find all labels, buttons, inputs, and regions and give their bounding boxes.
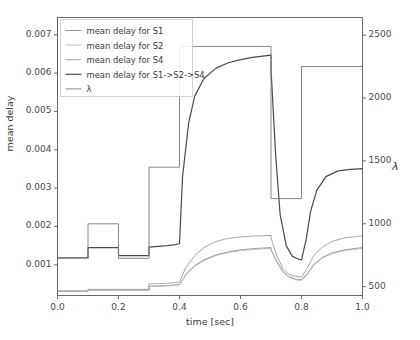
legend-label-4: λ bbox=[87, 84, 92, 94]
y-tick-label-right: 1500 bbox=[369, 155, 413, 165]
legend-label-2: mean delay for S4 bbox=[87, 55, 164, 65]
y-tick-label-left: 0.002 bbox=[6, 220, 52, 230]
x-tick-label: 0.0 bbox=[38, 302, 78, 312]
y-tick-label-left: 0.007 bbox=[6, 29, 52, 39]
y-tick-label-right: 2000 bbox=[369, 92, 413, 102]
figure-canvas: mean delay λ time [sec] mean delay for S… bbox=[0, 0, 420, 340]
y-tick-label-left: 0.004 bbox=[6, 144, 52, 154]
series-line-1 bbox=[58, 248, 363, 291]
legend-label-3: mean delay for S1->S2->S4 bbox=[87, 70, 205, 80]
y-tick-label-left: 0.005 bbox=[6, 105, 52, 115]
chart-plot: mean delay for S1mean delay for S2mean d… bbox=[0, 0, 420, 340]
y-tick-label-left: 0.003 bbox=[6, 182, 52, 192]
x-tick-label: 1.0 bbox=[343, 302, 383, 312]
y-tick-label-right: 1000 bbox=[369, 218, 413, 228]
x-tick-label: 0.6 bbox=[221, 302, 261, 312]
y-tick-label-left: 0.006 bbox=[6, 67, 52, 77]
y-tick-label-left: 0.001 bbox=[6, 259, 52, 269]
y-tick-label-right: 500 bbox=[369, 281, 413, 291]
x-tick-label: 0.8 bbox=[282, 302, 322, 312]
x-tick-label: 0.4 bbox=[160, 302, 200, 312]
x-tick-label: 0.2 bbox=[99, 302, 139, 312]
legend-label-0: mean delay for S1 bbox=[87, 26, 164, 36]
legend-label-1: mean delay for S2 bbox=[87, 41, 164, 51]
y-tick-label-right: 2500 bbox=[369, 29, 413, 39]
series-line-0 bbox=[58, 248, 363, 292]
